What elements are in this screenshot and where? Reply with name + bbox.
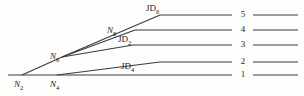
level-label-2: 2 bbox=[238, 57, 248, 66]
node-label-n8: N8 bbox=[107, 26, 116, 37]
junction-subscript-jd6: 6 bbox=[156, 8, 159, 15]
junction-base-jd6: JD bbox=[146, 3, 156, 13]
line-diagram: N2 N4 N6 N8 JD6 JD2 JD4 5 4 3 2 1 bbox=[0, 0, 304, 96]
node-label-n2: N2 bbox=[14, 80, 23, 91]
junction-subscript-jd2: 2 bbox=[128, 39, 131, 46]
junction-base-jd2: JD bbox=[118, 34, 128, 44]
junction-base-jd4: JD bbox=[121, 61, 131, 71]
level-label-4: 4 bbox=[238, 25, 248, 34]
branch-n6-jd2 bbox=[62, 45, 133, 57]
junction-label-jd2: JD2 bbox=[118, 35, 131, 46]
node-subscript-n8: 8 bbox=[113, 30, 116, 37]
node-subscript-n6: 6 bbox=[56, 56, 59, 63]
node-label-n6: N6 bbox=[50, 52, 59, 63]
junction-label-jd6: JD6 bbox=[146, 4, 159, 15]
branch-n4-jd4 bbox=[57, 62, 160, 75]
node-subscript-n4: 4 bbox=[56, 84, 59, 91]
level-label-3: 3 bbox=[238, 40, 248, 49]
level-label-5: 5 bbox=[238, 10, 248, 19]
rails-group bbox=[133, 15, 232, 62]
tails-group bbox=[253, 15, 298, 75]
node-label-n4: N4 bbox=[50, 80, 59, 91]
junction-subscript-jd4: 4 bbox=[131, 66, 134, 73]
level-label-1: 1 bbox=[238, 70, 248, 79]
node-subscript-n2: 2 bbox=[20, 84, 23, 91]
junction-label-jd4: JD4 bbox=[121, 62, 134, 73]
